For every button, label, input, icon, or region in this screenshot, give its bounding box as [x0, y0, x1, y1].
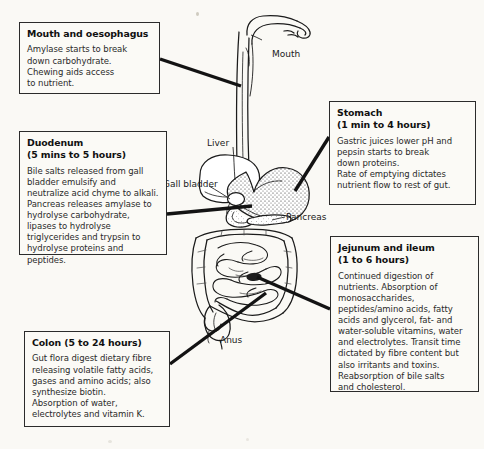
box-body-line: triglycerides and trypsin to: [27, 232, 159, 243]
box-body-line: dictated by fibre content but: [338, 348, 471, 359]
box-heading: Duodenum: [27, 137, 159, 149]
box-body-line: Chewing aids access: [27, 67, 152, 78]
connector-colon-box: [170, 293, 266, 364]
callout-box-stomach: Stomach (1 min to 4 hours) Gastric juice…: [329, 101, 476, 205]
box-body: Bile salts released from gall bladder em…: [27, 166, 159, 266]
connector-jejunum-box: [257, 277, 330, 309]
diagram-canvas: Mouth Liver Gall bladder Pancreas Anus M…: [0, 0, 484, 449]
box-body: Continued digestion of nutrients. Absorp…: [338, 271, 471, 393]
callout-box-mouth-and-oesophagus: Mouth and oesophagus Amylase starts to b…: [19, 22, 160, 94]
connector-mouth-box: [160, 59, 241, 86]
box-body-line: lipases to hydrolyse: [27, 221, 159, 232]
box-body: Gastric juices lower pH and pepsin start…: [337, 136, 468, 191]
box-subheading: (1 min to 4 hours): [337, 119, 468, 131]
box-body-line: and electrolytes. Transit time: [338, 337, 471, 348]
box-body-line: down carbohydrate.: [27, 56, 152, 67]
box-body-line: pepsin starts to break: [337, 147, 468, 158]
box-body-line: Bile salts released from gall: [27, 166, 159, 177]
connector-duodenum-box: [167, 206, 252, 214]
box-body-line: also irritants and toxins.: [338, 360, 471, 371]
box-body-line: Gut flora digest dietary fibre: [32, 353, 162, 364]
box-body-line: nutrient flow to rest of gut.: [337, 180, 468, 191]
box-body-line: releasing volatile fatty acids,: [32, 365, 162, 376]
callout-box-duodenum: Duodenum (5 mins to 5 hours) Bile salts …: [19, 131, 167, 255]
box-body-line: synthesize biotin.: [32, 387, 162, 398]
box-body-line: Reabsorption of bile salts: [338, 371, 471, 382]
box-body-line: Absorption of water,: [32, 398, 162, 409]
box-body-line: electrolytes and vitamin K.: [32, 409, 162, 420]
callout-box-colon: Colon (5 to 24 hours) Gut flora digest d…: [24, 331, 170, 427]
connector-stomach-box: [295, 137, 329, 191]
box-subheading: (1 to 6 hours): [338, 254, 471, 266]
box-body-line: bladder emulsify and: [27, 177, 159, 188]
box-body-line: neutralize acid chyme to alkali.: [27, 188, 159, 199]
anatomy-label-mouth: Mouth: [272, 49, 300, 59]
box-body-line: and cholesterol.: [338, 382, 471, 393]
box-body-line: acids and glycerol, fat- and: [338, 315, 471, 326]
anatomy-label-liver: Liver: [207, 138, 229, 148]
box-body: Amylase starts to break down carbohydrat…: [27, 44, 152, 88]
box-body-line: nutrients. Absorption of: [338, 282, 471, 293]
box-body-line: Amylase starts to break: [27, 44, 152, 55]
box-heading: Colon (5 to 24 hours): [32, 337, 162, 349]
box-body-line: hydrolyse proteins and: [27, 243, 159, 254]
box-body-line: monosaccharides,: [338, 293, 471, 304]
box-subheading: (5 mins to 5 hours): [27, 149, 159, 161]
box-heading: Mouth and oesophagus: [27, 28, 152, 40]
box-body-line: peptides.: [27, 255, 159, 266]
callout-box-jejunum-and-ileum: Jejunum and ileum (1 to 6 hours) Continu…: [330, 236, 479, 392]
box-body-line: gases and amino acids; also: [32, 376, 162, 387]
box-body-line: hydrolyse carbohydrate,: [27, 210, 159, 221]
anatomy-label-pancreas: Pancreas: [286, 212, 326, 222]
box-body: Gut flora digest dietary fibre releasing…: [32, 353, 162, 420]
box-body-line: peptides/amino acids, fatty: [338, 304, 471, 315]
box-heading: Stomach: [337, 107, 468, 119]
box-body-line: to nutrient.: [27, 78, 152, 89]
anatomy-label-gall-bladder: Gall bladder: [163, 179, 218, 189]
anatomy-label-anus: Anus: [220, 335, 242, 345]
box-body-line: down proteins.: [337, 158, 468, 169]
box-body-line: Rate of emptying dictates: [337, 169, 468, 180]
box-body-line: Pancreas releases amylase to: [27, 199, 159, 210]
box-body-line: Gastric juices lower pH and: [337, 136, 468, 147]
box-heading: Jejunum and ileum: [338, 242, 471, 254]
box-body-line: Continued digestion of: [338, 271, 471, 282]
box-body-line: water-soluble vitamins, water: [338, 326, 471, 337]
